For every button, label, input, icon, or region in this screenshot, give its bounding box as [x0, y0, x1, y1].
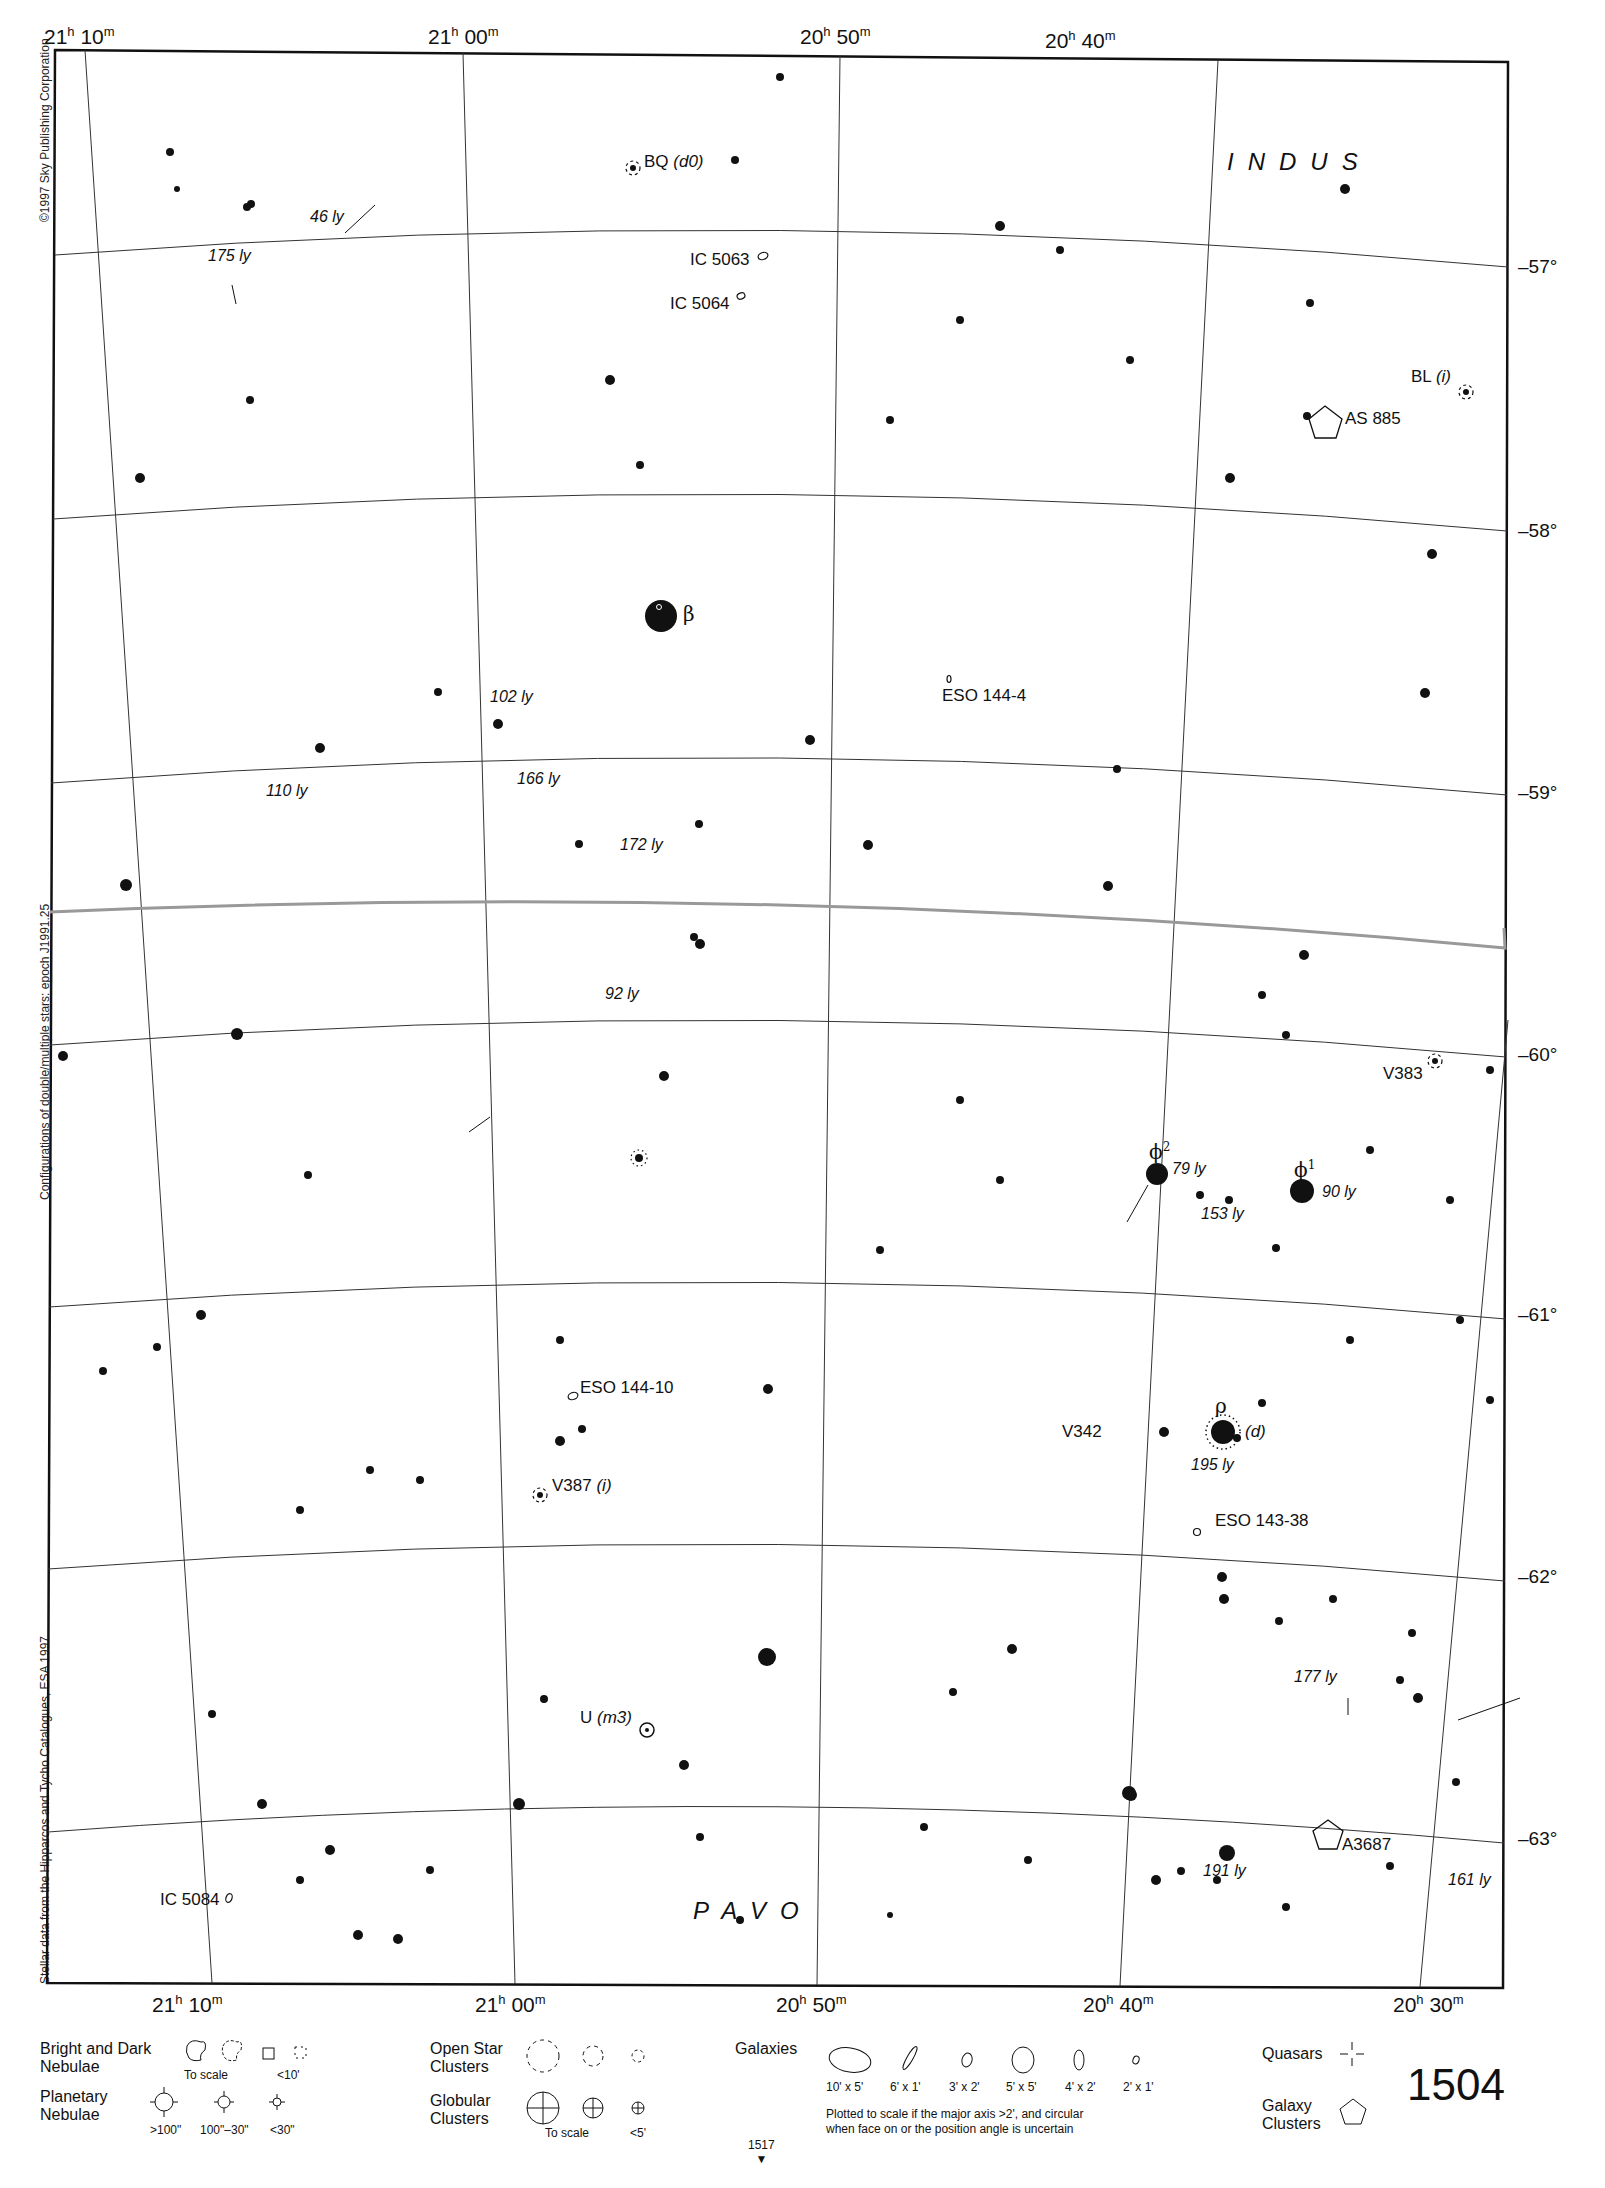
label-ic5084: IC 5084 — [160, 1890, 220, 1910]
distance-46ly: 46 ly — [310, 208, 344, 226]
galaxy-cluster-icon — [1338, 2097, 1368, 2127]
dark-nebula-small-icon — [293, 2045, 309, 2061]
globular-cluster-icons — [525, 2088, 655, 2128]
distance-161ly: 161 ly — [1448, 1871, 1491, 1889]
chart-frame — [47, 50, 1508, 1988]
legend-globular-clusters-title: GlobularClusters — [430, 2092, 490, 2128]
label-eso143-38: ESO 143-38 — [1215, 1511, 1309, 1531]
quasar-icon — [1340, 2042, 1364, 2066]
distance-90ly: 90 ly — [1322, 1183, 1356, 1201]
galaxy-size-2: 6' x 1' — [890, 2080, 921, 2094]
galaxy-icons — [825, 2040, 1165, 2080]
bright-nebula-icon — [183, 2038, 283, 2068]
distance-191ly: 191 ly — [1203, 1862, 1246, 1880]
adjacent-chart-link[interactable]: 1517▼ — [748, 2138, 775, 2166]
galaxies — [225, 251, 1201, 1903]
label-a3687: A3687 — [1342, 1835, 1391, 1855]
legend-nebulae-title: Bright and DarkNebulae — [40, 2040, 151, 2076]
legend-quasars-title: Quasars — [1262, 2045, 1322, 2063]
constellation-boundary — [50, 902, 1505, 948]
galaxy-size-4: 5' x 5' — [1006, 2080, 1037, 2094]
planetary-size-3: <30" — [270, 2123, 295, 2137]
open-cluster-icons — [525, 2036, 655, 2076]
label-bq: BQ (d0) — [644, 152, 704, 172]
star-unnamed-bright — [758, 1648, 776, 1666]
legend-galaxy-clusters-title: GalaxyClusters — [1262, 2097, 1321, 2133]
label-ic5063: IC 5063 — [690, 250, 750, 270]
planetary-size-1: >100" — [150, 2123, 181, 2137]
label-as885: AS 885 — [1345, 409, 1401, 429]
label-rho: ρ — [1215, 1394, 1227, 1418]
label-v383: V383 — [1383, 1064, 1423, 1084]
label-rho-double: (d) — [1245, 1422, 1266, 1442]
distance-172ly: 172 ly — [620, 836, 663, 854]
label-eso144-4: ESO 144-4 — [942, 686, 1026, 706]
label-v387: V387 (i) — [552, 1476, 612, 1496]
distance-166ly: 166 ly — [517, 770, 560, 788]
stars — [58, 73, 1494, 1944]
globular-small-label: <5' — [630, 2126, 646, 2140]
page-number: 1504 — [1407, 2060, 1505, 2110]
ra-grid-lines — [85, 50, 1508, 1987]
distance-102ly: 102 ly — [490, 688, 533, 706]
distance-79ly: 79 ly — [1172, 1160, 1206, 1178]
star-phi1 — [1290, 1179, 1314, 1203]
down-arrow-icon: ▼ — [748, 2152, 775, 2166]
legend-open-clusters-title: Open StarClusters — [430, 2040, 503, 2076]
galaxy-note-line-2: when face on or the position angle is un… — [826, 2122, 1074, 2136]
label-beta: β — [683, 602, 695, 626]
legend-planetary-title: PlanetaryNebulae — [40, 2088, 108, 2124]
planetary-nebula-icons — [150, 2085, 320, 2119]
planetary-size-2: 100"–30" — [200, 2123, 249, 2137]
label-phi1: ϕ1 — [1294, 1158, 1315, 1182]
constellation-pavo: PAVO — [693, 1897, 813, 1925]
distance-177ly: 177 ly — [1294, 1668, 1337, 1686]
label-u: U (m3) — [580, 1708, 632, 1728]
distance-110ly: 110 ly — [266, 782, 308, 800]
constellation-indus: INDUS — [1227, 148, 1372, 176]
galaxy-size-6: 2' x 1' — [1123, 2080, 1154, 2094]
distance-175ly: 175 ly — [208, 247, 251, 265]
label-phi2: ϕ2 — [1149, 1140, 1170, 1164]
distance-92ly: 92 ly — [605, 985, 639, 1003]
label-ic5064: IC 5064 — [670, 294, 730, 314]
star-phi2 — [1146, 1163, 1168, 1185]
nebulae-scale-label: To scale — [184, 2068, 228, 2082]
galaxy-cluster-a3687 — [1313, 1820, 1343, 1849]
globular-scale-label: To scale — [545, 2126, 589, 2140]
label-bl: BL (i) — [1411, 367, 1451, 387]
distance-153ly: 153 ly — [1201, 1205, 1244, 1223]
galaxy-size-1: 10' x 5' — [826, 2080, 863, 2094]
galaxy-note-line-1: Plotted to scale if the major axis >2', … — [826, 2107, 1083, 2121]
nebulae-small-label: <10' — [277, 2068, 300, 2082]
label-eso144-10: ESO 144-10 — [580, 1378, 674, 1398]
legend-galaxies-title: Galaxies — [735, 2040, 797, 2058]
galaxy-size-5: 4' x 2' — [1065, 2080, 1096, 2094]
star-rho — [1211, 1420, 1235, 1444]
star-chart — [0, 0, 1605, 2188]
galaxy-cluster-as885 — [1309, 406, 1342, 438]
label-v342: V342 — [1062, 1422, 1102, 1442]
galaxy-size-3: 3' x 2' — [949, 2080, 980, 2094]
distance-195ly: 195 ly — [1191, 1456, 1234, 1474]
